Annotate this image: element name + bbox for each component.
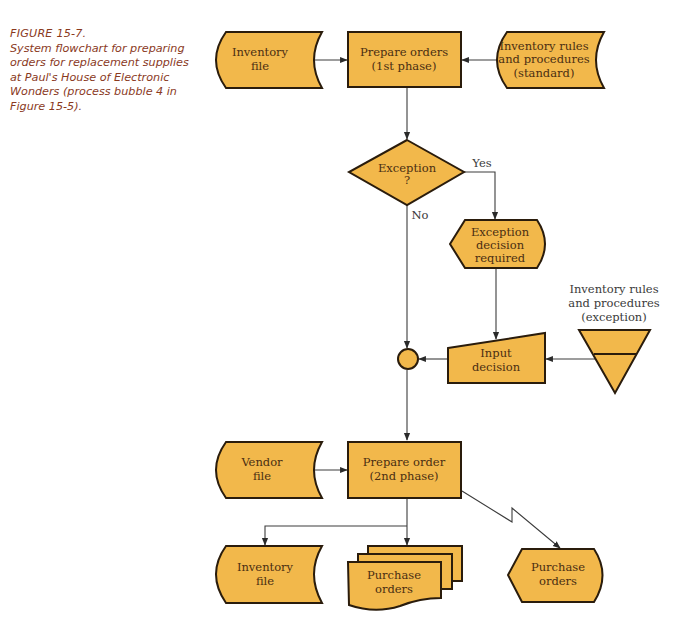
node-prepare-order-2nd: Prepare order (2nd phase): [348, 442, 461, 498]
node-label: orders: [539, 574, 577, 588]
node-label: Inventory: [237, 560, 294, 574]
edge-label-yes: Yes: [471, 156, 491, 170]
node-label: file: [251, 59, 269, 73]
edge-decision-yes: [464, 172, 495, 219]
node-label: Vendor: [240, 455, 283, 469]
node-exception-display: Exception decision required: [450, 220, 545, 268]
node-label: Prepare order: [363, 455, 446, 469]
node-rules-exception: Inventory rules and procedures (exceptio…: [568, 282, 659, 393]
node-label: Exception: [471, 225, 530, 239]
system-flowchart: Inventory file Prepare orders (1st phase…: [0, 0, 694, 633]
node-label: Inventory rules: [499, 39, 588, 53]
node-label: (1st phase): [372, 59, 437, 73]
node-prepare-orders-1st: Prepare orders (1st phase): [348, 32, 461, 87]
node-label: Inventory rules: [569, 282, 658, 296]
node-label: Purchase: [531, 560, 585, 574]
node-label: file: [256, 574, 274, 588]
edge-prepare2-to-inventory: [265, 526, 407, 545]
node-label: (2nd phase): [369, 469, 438, 483]
node-purchase-orders-documents: Purchase orders: [348, 546, 462, 610]
node-label: Purchase: [367, 568, 421, 582]
node-label: and procedures: [568, 296, 659, 310]
node-inventory-file-bottom: Inventory file: [216, 546, 322, 603]
node-vendor-file: Vendor file: [216, 442, 322, 498]
node-exception-decision: Exception ?: [349, 140, 464, 205]
node-rules-standard: Inventory rules and procedures (standard…: [497, 32, 604, 88]
node-input-decision: Input decision: [448, 333, 545, 383]
node-connector: [398, 349, 418, 369]
node-label: (standard): [514, 66, 575, 80]
node-label: Prepare orders: [360, 45, 448, 59]
node-label: Inventory: [232, 45, 289, 59]
node-label: (exception): [581, 310, 647, 324]
node-label: ?: [404, 173, 410, 187]
node-label: required: [475, 251, 526, 265]
node-label: file: [253, 469, 271, 483]
node-inventory-file-top: Inventory file: [216, 32, 322, 88]
edge-prepare2-comm-link: [462, 491, 560, 548]
node-label: orders: [375, 582, 413, 596]
node-label: decision: [472, 360, 521, 374]
node-label: decision: [476, 238, 525, 252]
node-purchase-orders-display: Purchase orders: [508, 549, 603, 602]
edge-label-no: No: [412, 208, 429, 222]
node-label: Input: [480, 346, 512, 360]
node-label: and procedures: [498, 52, 589, 66]
